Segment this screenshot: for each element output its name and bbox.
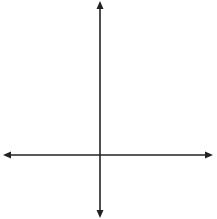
x-axis-right-arrow-icon bbox=[205, 152, 213, 159]
y-axis-up-arrow-icon bbox=[97, 1, 104, 9]
axes bbox=[3, 1, 213, 218]
coordinate-plane bbox=[0, 0, 217, 219]
x-axis-left-arrow-icon bbox=[3, 152, 11, 159]
y-axis-down-arrow-icon bbox=[97, 210, 104, 218]
